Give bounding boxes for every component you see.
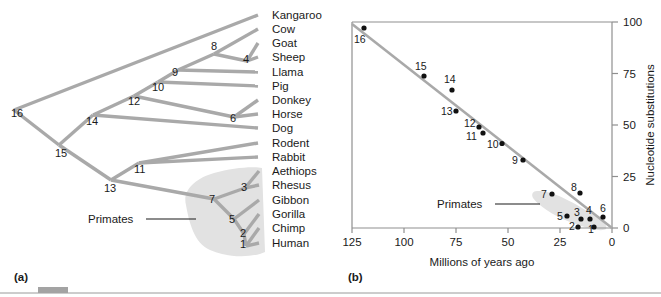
data-point-10 [499, 141, 504, 146]
tip-label-goat: Goat [272, 37, 298, 49]
data-label-13: 13 [441, 105, 453, 117]
tip-label-rabbit: Rabbit [272, 151, 306, 163]
bottom-gray-block [38, 287, 68, 293]
tree-node-12: 12 [128, 95, 140, 107]
data-point-14 [449, 87, 454, 92]
xtick-label-0: 0 [609, 236, 615, 248]
data-label-6: 6 [600, 202, 606, 214]
tip-label-gorilla: Gorilla [272, 208, 306, 220]
branch-10-pig [158, 82, 258, 86]
tree-node-11: 11 [134, 163, 145, 175]
data-label-16: 16 [354, 33, 366, 45]
tree-node-1: 1 [240, 238, 246, 250]
ytick-label-0: 0 [623, 222, 629, 234]
xtick-label-50: 50 [502, 236, 515, 248]
tip-label-llama: Llama [272, 66, 304, 78]
ytick-label-100: 100 [623, 16, 642, 28]
tree-node-13: 13 [104, 182, 116, 194]
tip-label-rhesus: Rhesus [272, 179, 311, 191]
data-label-4: 4 [586, 204, 592, 216]
data-label-5: 5 [557, 210, 563, 222]
tip-label-gibbon: Gibbon [272, 194, 309, 206]
xtick-label-125: 125 [342, 236, 361, 248]
data-point-5 [564, 213, 569, 218]
figure-container: Kangaroo Cow Goat Sheep Llama Pig Donkey… [0, 0, 661, 297]
branch-9-8 [178, 54, 214, 70]
data-point-11 [480, 130, 485, 135]
branch-12-6 [134, 96, 234, 117]
primates-label-tree: Primates [88, 213, 134, 225]
tree-node-6: 6 [230, 112, 236, 124]
tree-node-9: 9 [172, 66, 178, 78]
data-label-3: 3 [574, 206, 580, 218]
data-point-13 [453, 108, 458, 113]
tip-label-chimp: Chimp [272, 222, 305, 234]
ytick-label-75: 75 [623, 68, 636, 80]
data-point-8 [577, 190, 582, 195]
panel-b-label: (b) [348, 271, 363, 283]
y-axis-title: Nucleotide substitutions [644, 64, 656, 186]
data-point-12 [476, 124, 481, 129]
tree-node-15: 15 [55, 147, 67, 159]
tip-label-cow: Cow [272, 23, 296, 35]
branch-9-llama [178, 70, 258, 72]
tip-label-kangaroo: Kangaroo [272, 9, 322, 21]
data-label-11: 11 [466, 130, 477, 142]
branch-8-cow [214, 29, 258, 54]
tree-node-7: 7 [209, 193, 215, 205]
figure-svg: Kangaroo Cow Goat Sheep Llama Pig Donkey… [0, 0, 661, 297]
tip-label-rodent: Rodent [272, 137, 310, 149]
tree-node-14: 14 [86, 115, 98, 127]
tip-label-horse: Horse [272, 108, 303, 120]
data-label-10: 10 [487, 138, 499, 150]
data-label-1: 1 [588, 223, 594, 235]
tree-node-8: 8 [211, 40, 217, 52]
tip-label-donkey: Donkey [272, 94, 311, 106]
data-label-14: 14 [444, 73, 456, 85]
data-label-9: 9 [512, 154, 518, 166]
xtick-label-100: 100 [394, 236, 413, 248]
tree-node-10: 10 [152, 81, 164, 93]
panel-b-scatter: 125 100 75 50 25 0 0 25 50 75 100 Millio… [342, 16, 656, 283]
data-point-2 [575, 224, 580, 229]
data-point-9 [520, 157, 525, 162]
tip-label-aethiops: Aethiops [272, 165, 317, 177]
data-label-15: 15 [415, 60, 427, 72]
data-point-16 [361, 25, 366, 30]
tip-label-pig: Pig [272, 80, 289, 92]
data-point-15 [421, 73, 426, 78]
tree-node-3: 3 [241, 181, 247, 193]
tip-label-sheep: Sheep [272, 51, 305, 63]
tree-node-4: 4 [243, 53, 249, 65]
xtick-label-75: 75 [450, 236, 463, 248]
panel-a-label: (a) [14, 271, 28, 283]
primates-label-plot: Primates [437, 198, 483, 210]
data-label-7: 7 [541, 188, 547, 200]
bottom-rule-group [0, 287, 661, 293]
data-label-12: 12 [464, 117, 476, 129]
data-label-2: 2 [569, 220, 575, 232]
tip-label-dog: Dog [272, 122, 293, 134]
ytick-label-25: 25 [623, 171, 636, 183]
data-point-4 [587, 216, 592, 221]
x-axis-title: Millions of years ago [430, 256, 535, 268]
tree-node-5: 5 [229, 213, 235, 225]
panel-a-tree: Kangaroo Cow Goat Sheep Llama Pig Donkey… [11, 9, 322, 283]
data-point-6 [600, 214, 605, 219]
ytick-label-50: 50 [623, 119, 636, 131]
tree-node-16: 16 [11, 107, 23, 119]
data-label-8: 8 [571, 181, 577, 193]
xtick-label-25: 25 [554, 236, 567, 248]
tip-label-human: Human [272, 237, 309, 249]
data-point-7 [549, 191, 554, 196]
